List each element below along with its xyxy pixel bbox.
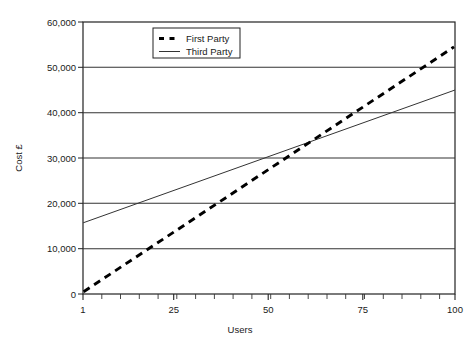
chart-container: 60,000 50,000 40,000 30,000 20,000 10,00… — [0, 0, 476, 348]
x-tick-label: 25 — [168, 304, 179, 315]
x-tick-label: 75 — [358, 304, 369, 315]
x-axis-title: Users — [228, 324, 253, 335]
legend-label-first-party: First Party — [186, 33, 230, 44]
y-tick-label: 0 — [71, 289, 76, 300]
y-tick-label: 40,000 — [47, 107, 76, 118]
y-tick-label: 10,000 — [47, 243, 76, 254]
x-tick-label: 100 — [447, 304, 463, 315]
cost-vs-users-line-chart: 60,000 50,000 40,000 30,000 20,000 10,00… — [0, 0, 476, 348]
y-tick-label: 50,000 — [47, 62, 76, 73]
x-tick-label: 1 — [80, 304, 85, 315]
y-axis-title: Cost £ — [13, 144, 24, 172]
y-tick-label: 60,000 — [47, 17, 76, 28]
legend: First Party Third Party — [153, 28, 240, 58]
legend-label-third-party: Third Party — [186, 46, 233, 57]
y-tick-label: 30,000 — [47, 153, 76, 164]
y-tick-label: 20,000 — [47, 198, 76, 209]
x-tick-label: 50 — [263, 304, 274, 315]
